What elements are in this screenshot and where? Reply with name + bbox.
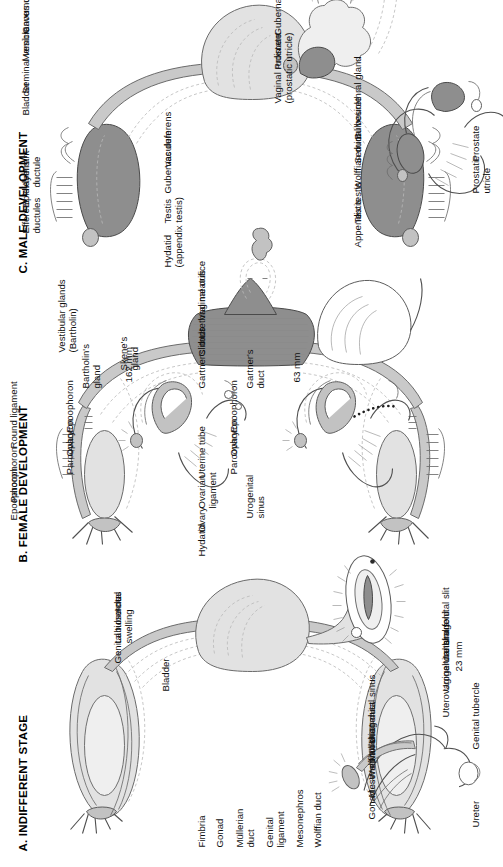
inset23-label-urogenital-sinus: Urogenital sinus xyxy=(366,674,377,743)
panel-indifferent-stage: A. INDIFFERENT STAGE xyxy=(0,578,503,867)
panel-male-development: C. MALE DEVELOPMENT xyxy=(0,0,503,289)
panel-female-development: B. FEMALE DEVELOPMENT xyxy=(0,289,503,578)
insetmale-label-testis: Testis xyxy=(352,198,363,223)
figure-canvas: A. INDIFFERENT STAGE xyxy=(0,0,503,867)
inset162-scale: 162 mm xyxy=(122,347,133,382)
insetmale-label-prostate: Prostate xyxy=(470,125,481,161)
inset162-label-paroophoron: Paroophoron xyxy=(64,419,75,474)
inset23-scale: 23 mm xyxy=(452,641,463,671)
inset23-label-ureter: Ureter xyxy=(470,800,481,827)
inset23-label-genital-tubercle: Genital tubercle xyxy=(470,682,481,749)
inset162-label-bartholins-gland: Bartholin's gland xyxy=(80,344,101,389)
insetmale-label-bulbourethral-gland: Bulbourethral gland xyxy=(352,56,363,139)
